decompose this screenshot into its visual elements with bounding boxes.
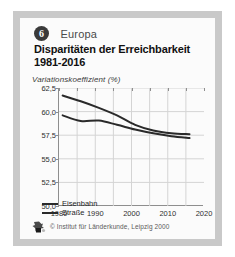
x-tick-mark bbox=[59, 88, 60, 91]
chart-canvas bbox=[59, 88, 204, 206]
y-tick-label: 55,0 bbox=[41, 154, 56, 163]
x-tick-label: 2010 bbox=[159, 209, 176, 218]
x-tick-label: 2020 bbox=[196, 209, 213, 218]
region-label: Europa bbox=[60, 28, 97, 40]
x-tick-label: 2000 bbox=[123, 209, 140, 218]
figure-number-badge: 6 bbox=[34, 26, 49, 41]
legend-item-0: Eisenbahn bbox=[42, 199, 97, 208]
x-tick-mark bbox=[77, 88, 78, 91]
figure-header: 6 Europa Disparitäten der Erreichbarkeit… bbox=[34, 24, 209, 68]
chart-legend: Eisenbahn Straße bbox=[42, 199, 97, 217]
page-title: Disparitäten der Erreichbarkeit 1981-201… bbox=[34, 43, 209, 68]
y-tick-label: 57,5 bbox=[41, 131, 56, 140]
title-line-1: Disparitäten der Erreichbarkeit bbox=[34, 43, 209, 56]
figure-frame: 6 Europa Disparitäten der Erreichbarkeit… bbox=[13, 11, 222, 246]
x-tick-mark bbox=[113, 88, 114, 91]
legend-swatch-icon bbox=[42, 212, 58, 214]
x-tick-mark bbox=[150, 88, 151, 91]
x-tick-mark bbox=[204, 88, 205, 91]
x-tick-mark bbox=[132, 88, 133, 91]
y-tick-label: 62,5 bbox=[41, 84, 56, 93]
x-tick-mark bbox=[95, 88, 96, 91]
x-tick-mark bbox=[168, 88, 169, 91]
y-tick-mark bbox=[56, 159, 59, 160]
y-tick-mark bbox=[56, 112, 59, 113]
x-tick-mark bbox=[186, 88, 187, 91]
title-line-2: 1981-2016 bbox=[34, 56, 209, 69]
figure-footer: © Institut für Länderkunde, Leipzig 2000 bbox=[32, 220, 209, 233]
plot-area: 50,052,555,057,560,062,51980199020002010… bbox=[58, 88, 203, 206]
legend-label-0: Eisenbahn bbox=[62, 199, 97, 208]
y-tick-label: 60,0 bbox=[41, 107, 56, 116]
legend-swatch-icon bbox=[42, 203, 58, 205]
legend-label-1: Straße bbox=[62, 208, 85, 217]
institute-logo-icon bbox=[32, 220, 46, 233]
y-tick-mark bbox=[56, 135, 59, 136]
y-tick-label: 52,5 bbox=[41, 178, 56, 187]
legend-item-1: Straße bbox=[42, 208, 97, 217]
copyright-text: © Institut für Länderkunde, Leipzig 2000 bbox=[50, 223, 169, 230]
figure-plate: 6 Europa Disparitäten der Erreichbarkeit… bbox=[20, 18, 215, 239]
y-tick-mark bbox=[56, 182, 59, 183]
